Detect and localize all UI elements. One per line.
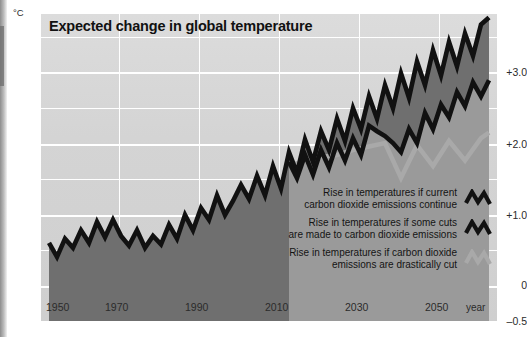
legend-item-current[interactable]: Rise in temperatures if current carbon d… bbox=[236, 184, 494, 214]
legend-label-drastic-cuts: Rise in temperatures if carbon dioxide e… bbox=[289, 247, 464, 271]
legend-label-drastic-cuts-line1: Rise in temperatures if carbon dioxide bbox=[289, 247, 457, 259]
legend-item-drastic-cuts[interactable]: Rise in temperatures if carbon dioxide e… bbox=[236, 244, 494, 274]
legend-item-some-cuts[interactable]: Rise in temperatures if some cuts are ma… bbox=[236, 214, 494, 244]
x-tick-label-2030: 2030 bbox=[345, 301, 368, 313]
x-axis-label: year bbox=[466, 302, 485, 313]
x-tick-label-1990: 1990 bbox=[185, 301, 208, 313]
legend-label-current-line1: Rise in temperatures if current bbox=[304, 187, 457, 199]
x-tick-label-1970: 1970 bbox=[105, 301, 128, 313]
chart-page: °C +3.0 +2.0 +1.0 0 –0.5 Expected change… bbox=[0, 0, 527, 337]
legend: Rise in temperatures if current carbon d… bbox=[236, 184, 494, 274]
x-tick-label-2010: 2010 bbox=[265, 301, 288, 313]
plot-area bbox=[41, 14, 497, 321]
series-canvas bbox=[41, 14, 497, 321]
zigzag-icon-light bbox=[464, 249, 494, 269]
page-binding-shadow bbox=[0, 26, 4, 86]
legend-label-drastic-cuts-line2: emissions are drastically cut bbox=[289, 259, 457, 271]
zigzag-icon-dark-2 bbox=[464, 219, 494, 239]
legend-label-some-cuts: Rise in temperatures if some cuts are ma… bbox=[289, 217, 464, 241]
chart-title: Expected change in global temperature bbox=[49, 18, 312, 34]
y-axis-unit: °C bbox=[13, 7, 24, 18]
legend-label-current-line2: carbon dioxide emissions continue bbox=[304, 199, 457, 211]
zigzag-icon-dark bbox=[464, 189, 494, 209]
legend-label-some-cuts-line1: Rise in temperatures if some cuts bbox=[289, 217, 457, 229]
legend-label-some-cuts-line2: are made to carbon dioxide emissions bbox=[289, 229, 457, 241]
legend-label-current: Rise in temperatures if current carbon d… bbox=[304, 187, 464, 211]
x-tick-label-1950: 1950 bbox=[46, 301, 69, 313]
x-tick-label-2050: 2050 bbox=[425, 301, 448, 313]
